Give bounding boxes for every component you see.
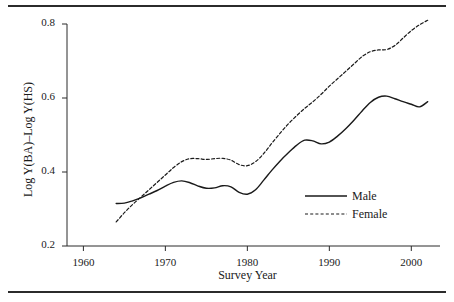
x-tick-label: 1980	[227, 256, 267, 268]
series-line-male	[116, 96, 428, 203]
y-axis-title: Log Y(BA)–Log Y(HS)	[21, 40, 36, 240]
legend-label-female: Female	[352, 207, 387, 222]
x-tick-label: 1990	[309, 256, 349, 268]
x-tick-label: 2000	[391, 256, 431, 268]
x-axis-title: Survey Year	[67, 268, 428, 283]
figure-container: 0.20.40.60.8 19601970198019902000 Log Y(…	[0, 0, 454, 302]
y-tick-label: 0.8	[25, 16, 55, 28]
series-line-female	[116, 20, 428, 222]
legend-sample-lines	[305, 196, 347, 214]
legend-label-male: Male	[352, 189, 377, 204]
x-tick-marks	[83, 246, 411, 251]
y-tick-label: 0.2	[25, 238, 55, 250]
data-series-group	[116, 20, 428, 222]
x-tick-label: 1970	[145, 256, 185, 268]
x-tick-label: 1960	[63, 256, 103, 268]
y-tick-marks	[62, 24, 67, 246]
